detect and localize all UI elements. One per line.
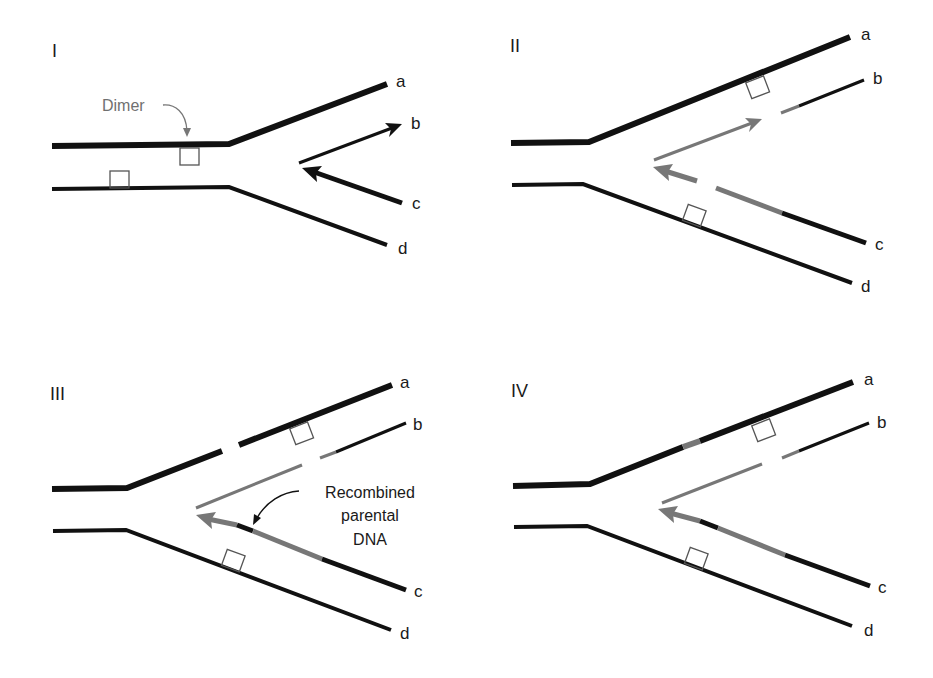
parental-strand-b [799, 423, 869, 451]
new-strand-c [670, 513, 700, 521]
parental-strand-d [512, 184, 852, 283]
new-strand-c [208, 519, 237, 525]
strand-label-c: c [875, 235, 884, 254]
new-strand-c-segment [718, 528, 785, 555]
strand-label-a: a [400, 373, 410, 392]
panel-2: II a b c d [510, 25, 884, 296]
new-strand-b-segment [781, 106, 799, 113]
new-strand-c-arrow [665, 171, 697, 181]
parental-strand-a [513, 447, 683, 486]
strand-label-d: d [861, 277, 870, 296]
new-strand-b [196, 465, 302, 508]
new-strand-b-segment [782, 451, 799, 458]
strand-label-c: c [412, 194, 421, 213]
strand-label-d: d [400, 624, 409, 643]
panel-4: IV a b c d [511, 370, 887, 640]
new-strand-b [662, 464, 762, 503]
parental-strand-d [52, 187, 387, 245]
parental-strand-a-segment [700, 382, 853, 441]
new-strand-c-arrow [314, 172, 402, 203]
recombined-label-line-3: DNA [353, 531, 387, 548]
strand-label-a: a [396, 72, 406, 91]
parental-strand-c [785, 555, 870, 586]
strand-label-d: d [398, 239, 407, 258]
panel-label: III [50, 384, 65, 404]
strand-label-b: b [413, 415, 422, 434]
arrowhead-icon [183, 128, 191, 137]
panel-label: II [510, 36, 520, 56]
parental-strand-a-segment [239, 385, 392, 445]
replication-fork-diagram: I Dimer a b c d II [0, 0, 933, 678]
strand-label-d: d [864, 621, 873, 640]
recombined-label-line-1: Recombined [325, 484, 415, 501]
strand-label-b: b [877, 413, 886, 432]
parental-strand-b [799, 80, 864, 106]
new-strand-a-patch [683, 441, 700, 447]
panel-1: I Dimer a b c d [52, 41, 421, 258]
panel-3: III Recombined parental DNA a b c d [50, 373, 423, 643]
new-strand-b-arrow [654, 123, 752, 160]
dimer-pointer-arrow [163, 105, 187, 131]
new-strand-c-segment [716, 188, 782, 213]
new-strand-b-segment [320, 452, 336, 458]
panel-label: I [52, 41, 57, 61]
recombined-parental-segment [237, 525, 253, 531]
parental-strand-d [53, 530, 391, 630]
dimer-box [110, 171, 129, 188]
strand-label-b: b [411, 114, 420, 133]
parental-strand-c [782, 213, 866, 243]
parental-strand-a [52, 451, 222, 489]
dimer-label: Dimer [102, 97, 145, 114]
parental-strand-d [514, 526, 852, 626]
strand-label-b: b [873, 69, 882, 88]
new-strand-c-segment [253, 531, 322, 559]
recombined-label-line-2: parental [341, 507, 399, 524]
parental-strand-a [52, 84, 387, 146]
recombined-pointer-arrow [257, 491, 299, 518]
parental-strand-a [511, 37, 850, 143]
strand-label-c: c [414, 582, 423, 601]
new-strand-b-arrow [299, 128, 392, 163]
dimer-box [180, 148, 199, 165]
arrowhead-icon [253, 514, 261, 525]
parental-strand-b [336, 423, 406, 452]
panel-label: IV [511, 381, 528, 401]
parental-strand-c [322, 559, 406, 590]
strand-label-a: a [864, 370, 874, 389]
strand-label-c: c [878, 578, 887, 597]
strand-label-a: a [861, 25, 871, 44]
recombined-parental-segment [700, 521, 718, 528]
